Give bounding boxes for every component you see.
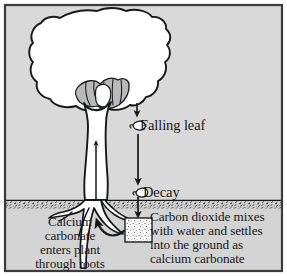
label-deposit-description: Carbon dioxide mixes with water and sett… <box>150 210 286 267</box>
calcium-carbonate-deposit <box>125 218 152 242</box>
label-roots-uptake: Calcium carbonate enters plant through r… <box>22 215 118 272</box>
label-decay: Decay <box>143 185 180 200</box>
ground-texture-band <box>6 200 281 209</box>
label-falling-leaf: Falling leaf <box>140 118 205 133</box>
diagram-root: Falling leaf Decay Calcium carbonate ent… <box>0 0 287 276</box>
